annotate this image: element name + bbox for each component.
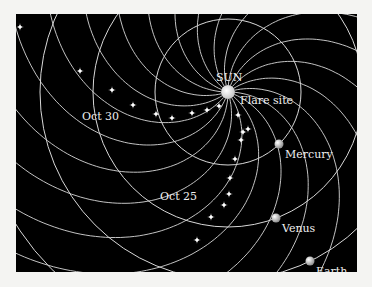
field-line bbox=[62, 61, 358, 272]
planet-label: Venus bbox=[281, 222, 316, 235]
sun-label: SUN bbox=[216, 71, 243, 84]
field-line bbox=[16, 14, 242, 238]
date-label: Oct 30 bbox=[82, 110, 119, 123]
planet-label: Earth bbox=[316, 265, 347, 272]
field-line bbox=[148, 14, 357, 92]
planet-earth-icon bbox=[306, 257, 315, 266]
orbit-ring bbox=[93, 14, 357, 227]
field-line bbox=[16, 92, 308, 272]
field-line bbox=[16, 78, 357, 272]
planet-mercury-icon bbox=[275, 140, 284, 149]
field-line bbox=[46, 14, 357, 123]
particle-trail bbox=[16, 23, 252, 244]
date-labels: Oct 30Oct 25 bbox=[82, 110, 197, 203]
field-line bbox=[83, 14, 358, 106]
sun-icon bbox=[221, 85, 235, 99]
planets: MercuryVenusEarth bbox=[272, 140, 348, 273]
diagram-panel: MercuryVenusEarth SUN Flare site Oct 30O… bbox=[16, 14, 357, 272]
flare-site-label: Flare site bbox=[240, 94, 293, 107]
planet-venus-icon bbox=[272, 214, 281, 223]
field-line bbox=[16, 52, 281, 272]
field-line bbox=[16, 14, 259, 272]
heliosphere-diagram: MercuryVenusEarth SUN Flare site Oct 30O… bbox=[16, 14, 357, 272]
date-label: Oct 25 bbox=[160, 190, 197, 203]
field-line bbox=[16, 89, 339, 273]
field-line bbox=[16, 14, 232, 203]
planet-label: Mercury bbox=[285, 148, 334, 161]
